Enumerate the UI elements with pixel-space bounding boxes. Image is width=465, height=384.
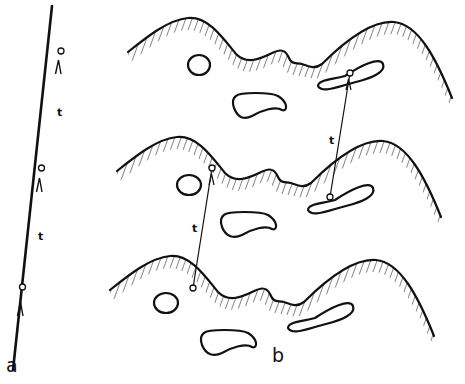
interval-label: t	[329, 134, 334, 147]
connector-node	[209, 165, 215, 171]
blob-round	[154, 293, 178, 313]
blob-irregular	[201, 330, 256, 355]
blob-irregular	[221, 212, 276, 237]
panel-b-label: b	[272, 344, 284, 366]
terrain-layer-bottom	[110, 256, 434, 348]
panel-a-timeline: t t a	[6, 6, 64, 376]
interval-label: t	[57, 106, 62, 119]
timeline-node	[20, 284, 26, 290]
blob-irregular	[233, 93, 286, 118]
timeline-axis	[13, 6, 52, 370]
interval-label: t	[38, 230, 43, 243]
timeline-node	[58, 48, 64, 54]
bottom-layer-blobs	[154, 293, 353, 355]
blob-round	[188, 55, 210, 75]
arrow-icon	[56, 60, 62, 74]
terrain-layer-middle	[117, 137, 441, 229]
connector-node	[327, 194, 333, 200]
blob-round	[177, 175, 201, 195]
terrain-layer-top	[128, 18, 452, 110]
panel-a-label: a	[6, 354, 18, 376]
connector-node	[347, 70, 353, 76]
arrow-icon	[37, 178, 43, 192]
diagram-canvas: t t a t	[0, 0, 465, 384]
timeline-node	[39, 165, 45, 171]
connector-node	[190, 285, 196, 291]
blob-elongated	[308, 185, 373, 213]
interval-label: t	[192, 222, 197, 235]
